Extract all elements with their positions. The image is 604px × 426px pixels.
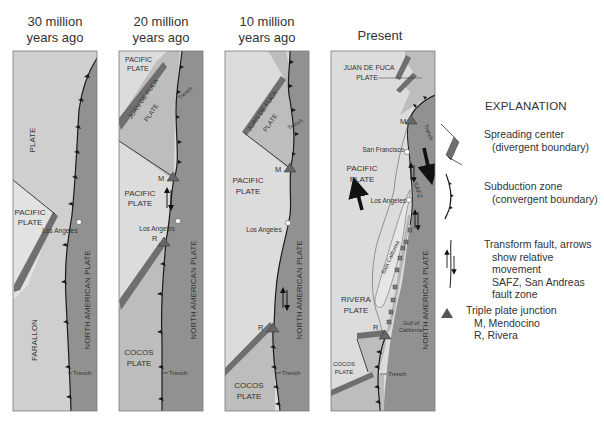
legend-text-line: Transform fault, arrows xyxy=(484,238,604,251)
legend-text-line: (divergent boundary) xyxy=(484,141,589,154)
legend-text-line: fault zone xyxy=(484,288,604,301)
label-trench: Trench xyxy=(282,370,300,376)
label-cocos: COCOS xyxy=(234,381,263,390)
legend-text-line: R, Rivera xyxy=(466,329,557,342)
spreading-center-icon xyxy=(440,122,480,166)
label-cocos: COCOS xyxy=(124,348,153,357)
label-gulf-of: Gulf of xyxy=(403,320,420,326)
label-junction-r: R xyxy=(152,234,158,243)
label-pacific-plate-top: PLATE xyxy=(127,65,149,72)
label-trench: Trench xyxy=(169,370,187,376)
label-los-angeles: Los Angeles xyxy=(42,227,78,235)
label-california: California xyxy=(399,327,423,333)
label-farallon: FARALLON xyxy=(30,319,39,361)
label-north-american-plate: NORTH AMERICAN PLATE xyxy=(83,250,92,349)
legend-text-line: SAFZ, San Andreas xyxy=(484,276,604,289)
label-pacific-plate: PLATE xyxy=(350,175,375,184)
label-north-american-plate: NORTH AMERICAN PLATE xyxy=(189,240,198,339)
legend-text-line: Triple plate junction xyxy=(466,304,557,317)
legend-text-line: Spreading center xyxy=(484,128,589,141)
legend-text-line: show relative movement xyxy=(484,251,604,276)
subduction-zone-icon xyxy=(440,172,480,220)
label-junction-m: M xyxy=(400,117,406,126)
label-pacific-plate: PLATE xyxy=(236,187,261,196)
label-north-american-plate: NORTH AMERICAN PLATE xyxy=(421,250,430,349)
label-pacific-top: PACIFIC xyxy=(125,56,152,63)
label-trench: Trench xyxy=(388,371,406,377)
label-pacific: PACIFIC xyxy=(347,164,378,173)
label-san-francisco: San Francisco xyxy=(362,146,404,153)
legend-item-spreading-center: Spreading center (divergent boundary) xyxy=(440,122,604,166)
legend-heading: EXPLANATION xyxy=(485,100,567,112)
label-los-angeles: Los Angeles xyxy=(139,225,175,233)
label-junction-r: R xyxy=(373,323,379,332)
label-los-angeles: Los Angeles xyxy=(371,197,407,205)
legend-item-transform-fault: Transform fault, arrows show relative mo… xyxy=(440,238,604,294)
label-jdf-plate: PLATE xyxy=(356,74,378,81)
label-north-american-plate: NORTH AMERICAN PLATE xyxy=(295,240,304,339)
label-pacific: PACIFIC xyxy=(233,176,264,185)
label-trench: Trench xyxy=(73,370,91,376)
label-rivera: RIVERA xyxy=(341,295,371,304)
panel-present: JUAN DE FUCA PLATE Trench M San Francisc… xyxy=(331,51,435,411)
label-los-angeles: Los Angeles xyxy=(246,226,282,234)
label-cocos-plate: PLATE xyxy=(127,359,152,368)
label-junction-r: R xyxy=(258,323,264,332)
label-pacific-plate: PLATE xyxy=(128,199,153,208)
label-plate: PLATE xyxy=(28,128,37,153)
legend-text-line: M, Mendocino xyxy=(466,317,557,330)
legend-text-line: (convergent boundary) xyxy=(484,193,598,206)
legend-item-subduction-zone: Subduction zone (convergent boundary) xyxy=(440,172,604,220)
label-rivera-plate: PLATE xyxy=(344,306,369,315)
label-cocos-plate: PLATE xyxy=(237,392,262,401)
label-pacific-plate: PLATE xyxy=(18,218,43,227)
label-junction-m: M xyxy=(158,174,164,183)
label-cocos: COCOS xyxy=(333,361,355,367)
transform-fault-icon xyxy=(440,238,480,294)
label-pacific: PACIFIC xyxy=(15,208,46,217)
panel-10ma: JUAN DE FUCA PLATE Trench M PACIFIC PLAT… xyxy=(225,51,309,411)
panel-20ma: PACIFIC PLATE JUAN DE FUCA PLATE Trench … xyxy=(119,51,203,411)
legend-text-line: Subduction zone xyxy=(484,180,598,193)
legend-item-triple-junction: Triple plate junction M, Mendocino R, Ri… xyxy=(440,304,604,348)
label-junction-m: M xyxy=(275,165,281,174)
label-pacific: PACIFIC xyxy=(125,189,156,198)
label-juan-de-fuca: JUAN DE FUCA xyxy=(344,64,395,71)
panel-30ma: PLATE PACIFIC PLATE Los Angeles NORTH AM… xyxy=(13,51,97,411)
label-cocos-plate: PLATE xyxy=(335,369,354,375)
